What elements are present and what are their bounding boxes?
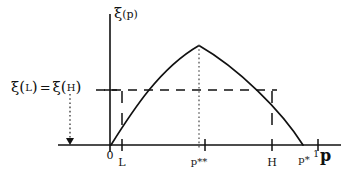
down-arrow-head xyxy=(66,138,74,145)
paren-close-right: ) xyxy=(75,78,81,96)
equals-operator: = xyxy=(38,80,53,95)
equal-value-label: ξ(L)=ξ(H) xyxy=(11,80,81,95)
paren-close-left: ) xyxy=(32,78,38,96)
x-axis-label: p xyxy=(320,148,331,164)
y-axis-label: ξ(p) xyxy=(114,6,138,21)
xi-of-p-diagram: ξ(L)=ξ(H) ξ(p) 0 L p** H p* 1 p xyxy=(0,0,342,176)
x-tick-label-H: H xyxy=(262,157,282,168)
xi-symbol-right: ξ xyxy=(53,78,61,96)
y-axis-label-arg: (p) xyxy=(122,8,138,21)
xi-curve xyxy=(111,46,303,146)
x-tick-label-p-double-star: p** xyxy=(178,157,220,167)
x-tick-label-L: L xyxy=(112,157,132,168)
arg-L: L xyxy=(25,82,32,93)
